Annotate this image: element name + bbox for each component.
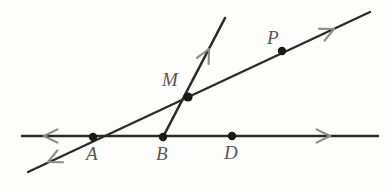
point-label-p: P xyxy=(267,28,279,47)
point-p xyxy=(278,47,286,55)
point-d xyxy=(228,132,236,140)
point-label-a: A xyxy=(86,144,98,163)
lines-group xyxy=(22,12,378,172)
point-a xyxy=(89,133,97,141)
point-label-b: B xyxy=(156,144,168,163)
point-label-m: M xyxy=(162,70,178,89)
point-m xyxy=(183,92,192,101)
diagonal-line-through-A-M-P xyxy=(28,12,370,172)
points-group xyxy=(89,47,286,141)
geometry-figure: A B D M P xyxy=(0,0,390,194)
point-b xyxy=(159,133,167,141)
point-label-d: D xyxy=(224,143,238,162)
geometry-canvas xyxy=(0,0,390,194)
